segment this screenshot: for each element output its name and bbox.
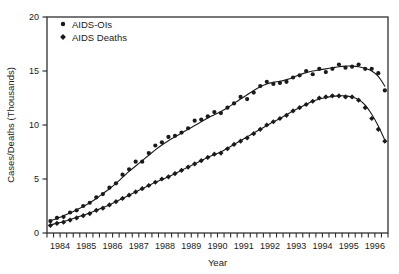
series-points-aids-deaths-marker bbox=[231, 142, 236, 147]
y-tick-label: 0 bbox=[34, 228, 39, 238]
series-points-aids-ois-marker bbox=[48, 219, 52, 223]
series-points-aids-ois-marker bbox=[173, 134, 177, 138]
series-points-aids-deaths-marker bbox=[146, 183, 151, 188]
series-points-aids-ois-marker bbox=[212, 110, 216, 114]
legend-label: AIDS Deaths bbox=[72, 32, 127, 43]
series-points-aids-ois-marker bbox=[55, 216, 59, 220]
x-tick-label: 1986 bbox=[103, 241, 123, 251]
series-points-aids-deaths-marker bbox=[133, 189, 138, 194]
series-points-aids-deaths-marker bbox=[166, 174, 171, 179]
series-points-aids-ois-marker bbox=[232, 101, 236, 105]
series-points-aids-ois-marker bbox=[383, 88, 387, 92]
series-points-aids-ois-marker bbox=[107, 186, 111, 190]
series-points-aids-ois-marker bbox=[101, 192, 105, 196]
series-points-aids-deaths-marker bbox=[192, 161, 197, 166]
legend-label: AIDS-OIs bbox=[72, 19, 112, 30]
y-tick-label: 15 bbox=[29, 66, 39, 76]
series-points-aids-ois-marker bbox=[343, 66, 347, 70]
aids-cases-deaths-chart: 0510152019841985198619871988198919901991… bbox=[0, 0, 399, 274]
series-points-aids-deaths-marker bbox=[179, 168, 184, 173]
y-tick-label: 10 bbox=[29, 120, 39, 130]
series-points-aids-ois-marker bbox=[186, 126, 190, 130]
series-points-aids-ois-marker bbox=[337, 62, 341, 66]
series-points-aids-deaths-marker bbox=[172, 171, 177, 176]
series-points-aids-ois-marker bbox=[94, 195, 98, 199]
series-points-aids-deaths-marker bbox=[290, 108, 295, 113]
series-points-aids-ois-marker bbox=[376, 71, 380, 75]
legend-marker-diamond bbox=[60, 34, 66, 40]
series-points-aids-deaths-marker bbox=[297, 105, 302, 110]
series-points-aids-ois-marker bbox=[265, 80, 269, 84]
series-points-aids-deaths-marker bbox=[186, 165, 191, 170]
series-points-aids-ois-marker bbox=[291, 75, 295, 79]
series-points-aids-ois-marker bbox=[324, 70, 328, 74]
series-points-aids-deaths-marker bbox=[349, 94, 354, 99]
series-points-aids-deaths-marker bbox=[153, 180, 158, 185]
series-points-aids-ois-marker bbox=[271, 82, 275, 86]
series-points-aids-ois-marker bbox=[206, 114, 210, 118]
x-tick-label: 1987 bbox=[129, 241, 149, 251]
series-points-aids-ois-marker bbox=[88, 201, 92, 205]
series-points-aids-ois-marker bbox=[317, 67, 321, 71]
series-points-aids-ois-marker bbox=[278, 81, 282, 85]
series-points-aids-deaths-marker bbox=[271, 119, 276, 124]
series-points-aids-ois-marker bbox=[127, 167, 131, 171]
series-points-aids-deaths-marker bbox=[94, 208, 99, 213]
y-tick-label: 20 bbox=[29, 12, 39, 22]
series-points-aids-ois-marker bbox=[61, 215, 65, 219]
series-points-aids-deaths-marker bbox=[376, 127, 381, 132]
y-axis-title: Cases/Deaths (Thousands) bbox=[5, 67, 16, 183]
series-points-aids-ois-marker bbox=[357, 62, 361, 66]
series-points-aids-deaths-marker bbox=[330, 93, 335, 98]
series-points-aids-ois-marker bbox=[114, 181, 118, 185]
series-points-aids-deaths-marker bbox=[310, 99, 315, 104]
series-points-aids-deaths-marker bbox=[127, 193, 132, 198]
x-tick-label: 1992 bbox=[260, 241, 280, 251]
series-points-aids-ois-marker bbox=[193, 119, 197, 123]
series-points-aids-deaths-marker bbox=[140, 186, 145, 191]
series-points-aids-ois-marker bbox=[219, 111, 223, 115]
series-points-aids-ois-marker bbox=[166, 135, 170, 139]
series-points-aids-deaths-marker bbox=[343, 94, 348, 99]
series-points-aids-ois-marker bbox=[238, 95, 242, 99]
series-points-aids-ois-marker bbox=[140, 160, 144, 164]
trend-line-aids-ois bbox=[50, 66, 384, 221]
series-points-aids-deaths-marker bbox=[48, 223, 53, 228]
series-points-aids-ois-marker bbox=[225, 106, 229, 110]
series-points-aids-ois-marker bbox=[363, 67, 367, 71]
x-tick-label: 1994 bbox=[312, 241, 332, 251]
plot-frame bbox=[47, 17, 388, 233]
x-tick-label: 1989 bbox=[181, 241, 201, 251]
series-points-aids-deaths-marker bbox=[74, 215, 79, 220]
x-tick-label: 1995 bbox=[339, 241, 359, 251]
y-tick-label: 5 bbox=[34, 174, 39, 184]
series-points-aids-ois-marker bbox=[147, 151, 151, 155]
x-tick-label: 1996 bbox=[365, 241, 385, 251]
series-points-aids-ois-marker bbox=[245, 97, 249, 101]
series-points-aids-ois-marker bbox=[258, 84, 262, 88]
series-points-aids-ois-marker bbox=[199, 118, 203, 122]
series-points-aids-ois-marker bbox=[311, 72, 315, 76]
series-points-aids-ois-marker bbox=[330, 67, 334, 71]
series-points-aids-deaths-marker bbox=[382, 139, 387, 144]
series-points-aids-ois-marker bbox=[75, 208, 79, 212]
series-points-aids-deaths-marker bbox=[120, 196, 125, 201]
series-points-aids-ois-marker bbox=[179, 130, 183, 134]
x-tick-label: 1990 bbox=[207, 241, 227, 251]
series-points-aids-ois-marker bbox=[134, 160, 138, 164]
series-points-aids-ois-marker bbox=[304, 69, 308, 73]
series-points-aids-ois-marker bbox=[68, 210, 72, 214]
series-points-aids-ois-marker bbox=[284, 80, 288, 84]
series-points-aids-deaths-marker bbox=[323, 94, 328, 99]
series-points-aids-ois-marker bbox=[298, 73, 302, 77]
x-tick-label: 1985 bbox=[76, 241, 96, 251]
chart-figure: 0510152019841985198619871988198919901991… bbox=[0, 0, 399, 274]
series-points-aids-deaths-marker bbox=[258, 127, 263, 132]
x-tick-label: 1988 bbox=[155, 241, 175, 251]
series-points-aids-deaths-marker bbox=[107, 202, 112, 207]
series-points-aids-ois-marker bbox=[350, 65, 354, 69]
series-points-aids-deaths-marker bbox=[199, 158, 204, 163]
series-points-aids-deaths-marker bbox=[304, 102, 309, 107]
series-points-aids-ois-marker bbox=[252, 91, 256, 95]
series-points-aids-deaths-marker bbox=[205, 155, 210, 160]
